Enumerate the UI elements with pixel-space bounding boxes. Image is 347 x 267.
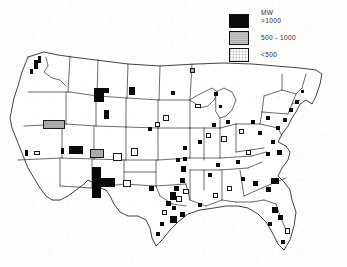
capacity-marker-texas-north	[149, 186, 154, 191]
capacity-marker-arkansas	[183, 189, 189, 194]
capacity-marker-oklahoma-east	[180, 178, 185, 183]
capacity-marker-michigan-west	[219, 105, 222, 108]
capacity-marker-virginia-coast	[277, 150, 282, 155]
capacity-marker-illinois	[206, 133, 211, 138]
capacity-marker-nebraska	[163, 115, 169, 121]
capacity-marker-mississippi	[213, 193, 218, 198]
capacity-marker-michigan-south	[226, 120, 230, 124]
capacity-marker-texas-houston	[170, 216, 177, 223]
capacity-marker-oklahoma	[181, 166, 186, 172]
capacity-marker-california-north	[25, 150, 28, 156]
capacity-marker-michigan-upper	[214, 92, 218, 96]
capacity-marker-washington-north	[38, 56, 41, 63]
capacity-marker-pennsylvania	[266, 116, 270, 120]
capacity-marker-arizona-north	[69, 146, 83, 154]
legend-unit-label: MW	[261, 9, 273, 16]
capacity-marker-nevada-north	[43, 120, 65, 129]
capacity-marker-missouri	[183, 146, 187, 150]
capacity-marker-texas-east-2	[166, 201, 171, 206]
capacity-marker-texas-east	[170, 192, 176, 200]
capacity-marker-texas-southeast	[162, 210, 167, 215]
capacity-marker-missouri-east	[198, 140, 202, 144]
legend-swatch-low	[229, 48, 249, 62]
legend-swatch-high	[229, 14, 249, 28]
capacity-marker-wyoming-north	[101, 88, 109, 93]
capacity-marker-arkansas-south	[176, 196, 182, 202]
capacity-marker-oregon-north	[30, 69, 33, 74]
figure-canvas: MW >1000 500 - 1000 <500	[0, 0, 347, 267]
legend-swatch-medium	[229, 31, 249, 45]
capacity-marker-south-dakota-west	[129, 87, 135, 95]
capacity-marker-ohio	[239, 129, 244, 134]
capacity-marker-new-mexico-arizona	[92, 167, 101, 198]
capacity-marker-florida-east	[285, 228, 290, 234]
capacity-marker-colorado-south	[113, 153, 122, 161]
capacity-marker-georgia-coast	[266, 187, 271, 192]
capacity-marker-kentucky-west	[216, 163, 220, 167]
capacity-marker-south-carolina-coast	[271, 178, 279, 184]
capacity-marker-minnesota-north	[190, 68, 195, 73]
capacity-marker-ohio-east	[251, 120, 255, 124]
capacity-marker-iowa-west	[148, 127, 152, 131]
capacity-marker-missouri-south	[176, 158, 180, 162]
capacity-marker-nevada-south	[61, 148, 64, 154]
legend: MW >1000 500 - 1000 <500	[225, 8, 343, 66]
capacity-marker-south-carolina	[253, 181, 258, 186]
legend-label-low: <500	[261, 51, 277, 58]
capacity-marker-louisiana	[180, 212, 185, 217]
capacity-marker-west-virginia	[246, 150, 251, 155]
capacity-marker-maryland	[271, 140, 275, 144]
capacity-marker-new-jersey	[276, 126, 280, 130]
capacity-marker-texas-gulf	[160, 222, 164, 226]
legend-label-medium: 500 - 1000	[261, 34, 296, 41]
capacity-marker-texas-coast	[156, 232, 160, 236]
capacity-marker-virginia	[266, 152, 270, 156]
capacity-marker-minnesota	[171, 91, 175, 95]
capacity-marker-colorado-west	[104, 110, 109, 119]
capacity-marker-wisconsin	[195, 104, 201, 108]
capacity-marker-pennsylvania-west	[258, 131, 262, 135]
capacity-marker-kansas-south	[183, 157, 187, 161]
capacity-marker-alabama-north	[227, 186, 232, 191]
capacity-marker-kansas-west	[131, 148, 138, 156]
capacity-marker-tennessee-west	[208, 173, 212, 177]
capacity-marker-louisiana-west	[172, 206, 176, 210]
capacity-marker-illinois-north	[212, 123, 216, 127]
capacity-marker-florida-gulf	[268, 222, 272, 226]
capacity-marker-texas-panhandle	[123, 180, 131, 187]
capacity-marker-florida-north	[272, 207, 278, 213]
capacity-marker-georgia-north	[241, 177, 245, 181]
capacity-marker-kentucky	[236, 160, 240, 164]
capacity-marker-indiana	[221, 136, 227, 142]
capacity-marker-four-corners	[90, 149, 104, 158]
capacity-marker-florida-central	[278, 215, 283, 220]
capacity-marker-nebraska-east	[155, 122, 160, 127]
capacity-marker-florida-south	[281, 240, 285, 244]
map-outlines	[10, 52, 322, 250]
capacity-marker-new-york-east	[283, 118, 287, 122]
legend-label-high: >1000	[261, 17, 281, 24]
capacity-marker-new-hampshire	[301, 90, 304, 93]
capacity-marker-california-central	[34, 151, 40, 155]
capacity-marker-massachusetts	[295, 100, 299, 104]
capacity-marker-texas-northeast	[174, 186, 179, 191]
capacity-marker-new-mexico-east	[101, 178, 115, 187]
capacity-marker-louisiana-east	[198, 203, 202, 207]
capacity-marker-connecticut	[289, 108, 293, 112]
